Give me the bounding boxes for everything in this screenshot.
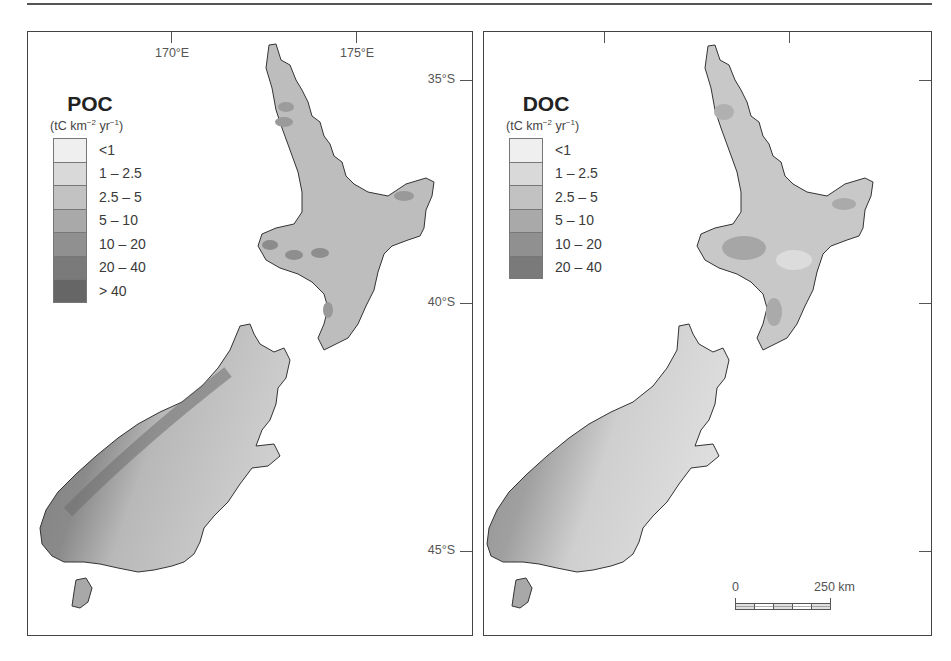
legend-swatch <box>509 138 543 162</box>
legend-swatch <box>53 185 87 209</box>
legend-swatch <box>53 162 87 186</box>
label-40s: 40°S <box>428 295 455 309</box>
legend-item: <1 <box>509 138 602 162</box>
legend-item: 2.5 – 5 <box>509 185 602 209</box>
legend-swatch <box>53 232 87 256</box>
tick-40s <box>919 303 931 304</box>
legend-item: > 40 <box>53 279 146 303</box>
south-island <box>40 324 290 572</box>
scale-end-label: 250 km <box>814 580 855 594</box>
legend-item: 20 – 40 <box>509 256 602 280</box>
label-35s: 35°S <box>428 72 455 86</box>
stewart-island <box>72 578 92 608</box>
legend-title: DOC <box>506 92 586 116</box>
legend-title: POC <box>50 92 130 116</box>
legend-item: 1 – 2.5 <box>509 162 602 186</box>
legend-swatch <box>509 209 543 233</box>
tick-35s <box>919 80 931 81</box>
legend-swatch <box>53 138 87 162</box>
tick-45s <box>460 551 472 552</box>
north-island <box>697 45 873 350</box>
legend-swatch <box>509 162 543 186</box>
label-45s: 45°S <box>428 543 455 557</box>
legend-item: <1 <box>53 138 146 162</box>
legend-swatch <box>53 209 87 233</box>
stewart-island <box>512 578 532 608</box>
legend-item: 2.5 – 5 <box>53 185 146 209</box>
legend-item: 1 – 2.5 <box>53 162 146 186</box>
legend-swatch <box>53 279 87 303</box>
legend-swatch <box>509 185 543 209</box>
tick-35s <box>460 80 472 81</box>
legend-swatch <box>53 256 87 280</box>
scale-bar: 0 250 km <box>732 580 872 620</box>
doc-legend: DOC (tC km−2 yr−1) <1 1 – 2.5 2.5 – 5 5 … <box>506 92 602 279</box>
tick-40s <box>460 303 472 304</box>
label-170e: 170°E <box>155 46 189 60</box>
scale-bar-graphic <box>735 598 865 612</box>
legend-item: 10 – 20 <box>53 232 146 256</box>
poc-map-panel: 170°E 175°E 35°S 40°S 45°S POC (tC km−2 … <box>27 31 473 636</box>
scale-start-label: 0 <box>732 580 739 594</box>
tick-170e <box>604 32 605 43</box>
legend-item: 10 – 20 <box>509 232 602 256</box>
label-175e: 175°E <box>340 46 374 60</box>
south-island <box>487 324 729 572</box>
doc-map-panel: DOC (tC km−2 yr−1) <1 1 – 2.5 2.5 – 5 5 … <box>483 31 932 636</box>
tick-45s <box>919 551 931 552</box>
legend-swatch <box>509 256 543 280</box>
top-rule <box>27 3 932 5</box>
legend-units: (tC km−2 yr−1) <box>50 118 146 133</box>
legend-item: 20 – 40 <box>53 256 146 280</box>
tick-170e <box>171 32 172 43</box>
legend-swatch <box>509 232 543 256</box>
legend-item: 5 – 10 <box>53 209 146 233</box>
legend-units: (tC km−2 yr−1) <box>506 118 602 133</box>
tick-175e <box>356 32 357 43</box>
tick-175e <box>789 32 790 43</box>
legend-item: 5 – 10 <box>509 209 602 233</box>
poc-legend: POC (tC km−2 yr−1) <1 1 – 2.5 2.5 – 5 5 … <box>50 92 146 303</box>
